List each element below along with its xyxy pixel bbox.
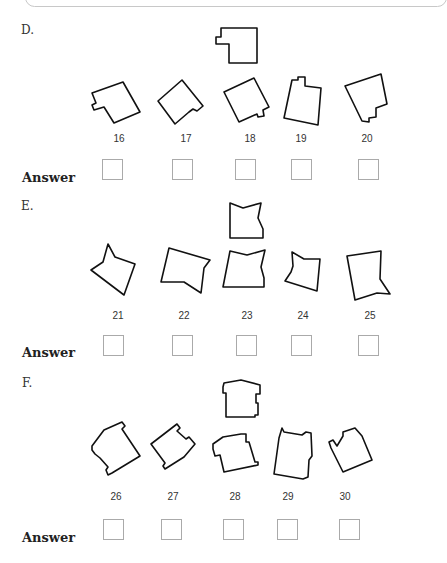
option-shape-28 bbox=[211, 432, 263, 474]
answer-box-21[interactable] bbox=[103, 335, 124, 356]
option-shape-16 bbox=[90, 80, 146, 126]
item-number-27: 27 bbox=[158, 491, 188, 502]
item-number-26: 26 bbox=[101, 491, 131, 502]
item-number-19: 19 bbox=[286, 133, 316, 144]
answer-box-18[interactable] bbox=[235, 159, 256, 180]
item-number-24: 24 bbox=[288, 310, 318, 321]
option-shape-27 bbox=[149, 422, 201, 474]
reference-shape-f bbox=[221, 379, 265, 419]
answer-box-25[interactable] bbox=[358, 335, 379, 356]
answer-box-20[interactable] bbox=[358, 159, 379, 180]
answer-box-27[interactable] bbox=[161, 519, 182, 540]
option-shape-29 bbox=[272, 426, 316, 482]
answer-box-23[interactable] bbox=[236, 335, 257, 356]
answer-box-24[interactable] bbox=[291, 335, 312, 356]
answer-box-17[interactable] bbox=[172, 159, 193, 180]
item-number-22: 22 bbox=[169, 310, 199, 321]
answer-box-28[interactable] bbox=[223, 519, 244, 540]
option-shape-26 bbox=[90, 420, 146, 476]
option-shape-21 bbox=[89, 242, 149, 298]
item-number-29: 29 bbox=[273, 491, 303, 502]
answer-box-22[interactable] bbox=[172, 335, 193, 356]
option-shape-18 bbox=[222, 76, 272, 126]
item-number-16: 16 bbox=[104, 133, 134, 144]
item-number-21: 21 bbox=[103, 310, 133, 321]
answer-label-e: Answer bbox=[22, 345, 75, 360]
section-label-e: E. bbox=[21, 199, 34, 213]
item-number-18: 18 bbox=[235, 133, 265, 144]
answer-box-19[interactable] bbox=[291, 159, 312, 180]
answer-box-26[interactable] bbox=[103, 519, 124, 540]
answer-label-f: Answer bbox=[22, 530, 75, 545]
reference-shape-e bbox=[228, 201, 274, 241]
option-shape-23 bbox=[221, 249, 273, 291]
option-shape-17 bbox=[156, 78, 208, 126]
section-label-d: D. bbox=[21, 23, 34, 37]
section-label-f: F. bbox=[22, 376, 32, 390]
item-number-23: 23 bbox=[232, 310, 262, 321]
option-shape-20 bbox=[343, 72, 389, 126]
answer-box-29[interactable] bbox=[277, 519, 298, 540]
item-number-20: 20 bbox=[352, 133, 382, 144]
item-number-25: 25 bbox=[355, 310, 385, 321]
previous-section-frame bbox=[25, 0, 447, 7]
option-shape-22 bbox=[159, 246, 215, 296]
answer-box-16[interactable] bbox=[102, 159, 123, 180]
answer-box-30[interactable] bbox=[339, 519, 360, 540]
item-number-28: 28 bbox=[220, 491, 250, 502]
reference-shape-d bbox=[214, 27, 260, 65]
item-number-30: 30 bbox=[330, 491, 360, 502]
option-shape-24 bbox=[283, 250, 329, 294]
item-number-17: 17 bbox=[171, 133, 201, 144]
option-shape-19 bbox=[282, 76, 328, 128]
option-shape-30 bbox=[327, 426, 377, 474]
option-shape-25 bbox=[345, 249, 393, 303]
answer-label-d: Answer bbox=[22, 170, 75, 185]
